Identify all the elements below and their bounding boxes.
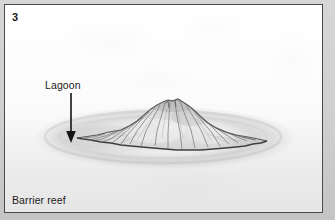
scan-page-background: Lagoon 3 Barrier reef bbox=[0, 0, 335, 220]
lagoon-annotation-label: Lagoon bbox=[45, 79, 81, 91]
lagoon-pointer-arrow-icon bbox=[60, 93, 84, 145]
stage-number-label: 3 bbox=[12, 11, 18, 23]
figure-caption: Barrier reef bbox=[12, 194, 66, 206]
figure-panel: Lagoon 3 Barrier reef bbox=[4, 4, 323, 213]
barrier-reef-illustration bbox=[5, 5, 323, 213]
